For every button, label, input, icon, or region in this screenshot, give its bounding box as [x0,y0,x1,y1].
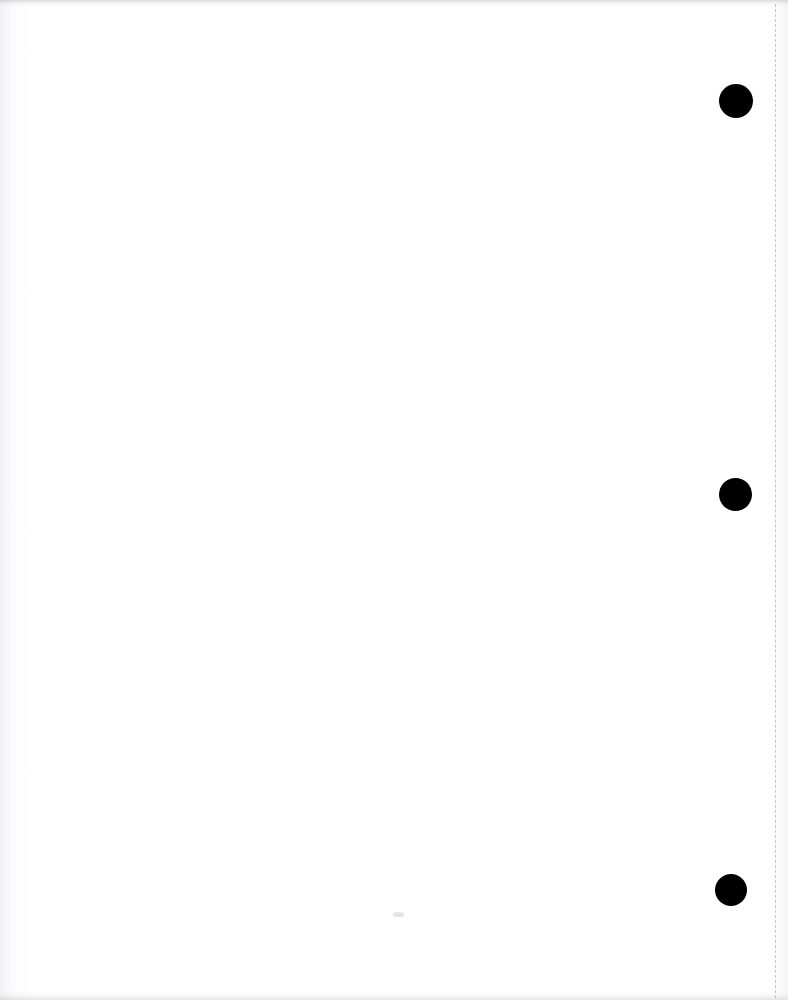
punch-hole-middle [719,478,752,511]
punch-hole-bottom [715,874,747,906]
bottom-edge-smudge [0,991,788,1000]
dashed-margin-rule [775,4,776,998]
scanned-page [0,0,788,1000]
punch-hole-top [719,84,753,118]
page-body-text [40,40,740,950]
right-edge-shadow [774,0,788,1000]
top-edge-smudge [0,0,788,7]
left-edge-shadow [0,0,26,1000]
